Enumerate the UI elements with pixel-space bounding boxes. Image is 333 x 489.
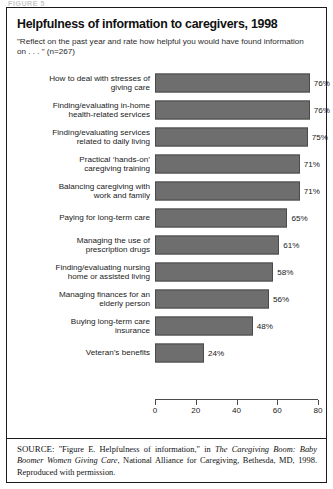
bar-row: Veteran’s benefits24% (17, 340, 318, 367)
bar-row: Paying for long-term care65% (17, 205, 318, 232)
bar-category-label-line: home or assisted living (17, 272, 150, 282)
x-axis-tick (196, 400, 197, 405)
bar-category-label-line: prescription drugs (17, 245, 150, 255)
bar-row: Managing finances for anelderly person56… (17, 286, 318, 313)
bar-value-label: 48% (257, 322, 273, 331)
x-axis-tick (277, 400, 278, 405)
x-axis-tick-label: 80 (313, 406, 322, 415)
bar (155, 74, 310, 93)
bar-row: Buying long-term careinsurance48% (17, 313, 318, 340)
bar-rows: How to deal with stresses ofgiving care7… (17, 70, 318, 367)
bar-value-label: 65% (291, 214, 307, 223)
x-axis-tick (318, 400, 319, 405)
source-text-part1: "Figure E. Helpfulness of information," … (54, 445, 214, 454)
figure-card: FIGURE 5 Helpfulness of information to c… (0, 0, 333, 489)
bar-value-label: 71% (304, 160, 320, 169)
source-divider (7, 438, 326, 439)
bar-category-label-line: Balancing caregiving with (17, 182, 150, 192)
bar-category-label: Finding/evaluating in-homehealth-related… (17, 101, 155, 120)
bar-row: Finding/evaluating nursinghome or assist… (17, 259, 318, 286)
bar-value-label: 24% (208, 349, 224, 358)
bar (155, 317, 253, 336)
bar-track: 71% (155, 178, 318, 205)
bar-track: 61% (155, 232, 318, 259)
bar-category-label: Managing finances for anelderly person (17, 290, 155, 309)
page-title: Helpfulness of information to caregivers… (17, 17, 316, 31)
bar-category-label-line: How to deal with stresses of (17, 74, 150, 84)
bar-value-label: 56% (273, 295, 289, 304)
figure-inner: Helpfulness of information to caregivers… (7, 8, 326, 482)
bar-category-label-line: Finding/evaluating nursing (17, 263, 150, 273)
source-note: SOURCE: "Figure E. Helpfulness of inform… (17, 444, 317, 478)
bar-track: 76% (155, 70, 318, 97)
bar-category-label: Managing the use ofprescription drugs (17, 236, 155, 255)
source-label: SOURCE: (17, 444, 54, 454)
x-axis-tick-label: 40 (232, 406, 241, 415)
bar-category-label: Finding/evaluating servicesrelated to da… (17, 128, 155, 147)
x-axis-tick-label: 0 (153, 406, 158, 415)
bar-row: Finding/evaluating in-homehealth-related… (17, 97, 318, 124)
bar-value-label: 58% (277, 268, 293, 277)
bar-category-label: Finding/evaluating nursinghome or assist… (17, 263, 155, 282)
bar (155, 263, 273, 282)
bar-category-label-line: health-related services (17, 110, 150, 120)
bar-category-label-line: work and family (17, 191, 150, 201)
bar-row: Managing the use ofprescription drugs61% (17, 232, 318, 259)
bar-row: How to deal with stresses ofgiving care7… (17, 70, 318, 97)
bar-category-label-line: insurance (17, 326, 150, 336)
bar-category-label-line: Buying long-term care (17, 317, 150, 327)
bar-category-label-line: Managing the use of (17, 236, 150, 246)
bar (155, 101, 310, 120)
bar-category-label-line: Paying for long-term care (17, 213, 150, 223)
figure-frame: Helpfulness of information to caregivers… (6, 7, 327, 483)
bar (155, 236, 279, 255)
x-axis-tick (237, 400, 238, 405)
bar-category-label-line: caregiving training (17, 164, 150, 174)
figure-subtitle: "Reflect on the past year and rate how h… (17, 37, 309, 58)
bar-chart: How to deal with stresses ofgiving care7… (17, 70, 318, 400)
bar-value-label: 76% (314, 106, 330, 115)
bar (155, 209, 287, 228)
bar-category-label-line: Veteran’s benefits (17, 348, 150, 358)
bar (155, 182, 300, 201)
bar-category-label-line: giving care (17, 83, 150, 93)
bar (155, 344, 204, 363)
bar-track: 65% (155, 205, 318, 232)
bar-track: 76% (155, 97, 318, 124)
bar-track: 48% (155, 313, 318, 340)
bar-category-label: Practical ‘hands-on’caregiving training (17, 155, 155, 174)
x-axis-tick-label: 60 (273, 406, 282, 415)
bar (155, 290, 269, 309)
bar-category-label: Balancing caregiving withwork and family (17, 182, 155, 201)
bar-category-label: Paying for long-term care (17, 213, 155, 223)
bar-category-label: Veteran’s benefits (17, 348, 155, 358)
bar (155, 128, 308, 147)
bar-category-label-line: Practical ‘hands-on’ (17, 155, 150, 165)
x-axis-tick-labels: 020406080 (155, 406, 318, 418)
bar-track: 24% (155, 340, 318, 367)
bar-value-label: 61% (283, 241, 299, 250)
bar-category-label: How to deal with stresses ofgiving care (17, 74, 155, 93)
bar-category-label-line: related to daily living (17, 137, 150, 147)
x-axis-tick (155, 400, 156, 405)
bar-row: Practical ‘hands-on’caregiving training7… (17, 151, 318, 178)
bar-category-label-line: elderly person (17, 299, 150, 309)
bar-category-label: Buying long-term careinsurance (17, 317, 155, 336)
bar-track: 75% (155, 124, 318, 151)
bar-category-label-line: Finding/evaluating in-home (17, 101, 150, 111)
bar-track: 56% (155, 286, 318, 313)
bar-category-label-line: Finding/evaluating services (17, 128, 150, 138)
bar-row: Finding/evaluating servicesrelated to da… (17, 124, 318, 151)
x-axis-tick-label: 20 (191, 406, 200, 415)
bar-row: Balancing caregiving withwork and family… (17, 178, 318, 205)
cut-off-header-text: FIGURE 5 (8, 0, 128, 7)
bar-value-label: 76% (314, 79, 330, 88)
bar-track: 58% (155, 259, 318, 286)
bar (155, 155, 300, 174)
bar-value-label: 75% (312, 133, 328, 142)
bar-value-label: 71% (304, 187, 320, 196)
bar-track: 71% (155, 151, 318, 178)
bar-category-label-line: Managing finances for an (17, 290, 150, 300)
